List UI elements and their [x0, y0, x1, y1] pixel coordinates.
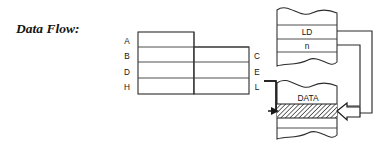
register-label-l: L [255, 83, 260, 92]
l-register-to-data-arrow [264, 81, 276, 111]
register-label-e: E [254, 68, 260, 77]
register-label-h: H [124, 83, 130, 92]
caption-data-flow: Data Flow: [15, 21, 79, 36]
ld-opcode-cell: LD [302, 27, 313, 37]
register-label-c: C [254, 52, 260, 61]
n-to-data-connector [337, 45, 360, 106]
ld-to-data-connector [337, 31, 372, 113]
register-table-left-block [138, 32, 194, 94]
diagram-canvas: Data Flow: A B D H C E L [0, 0, 390, 160]
register-label-a: A [124, 37, 130, 46]
register-label-b: B [124, 52, 130, 61]
data-cell: DATA [297, 93, 319, 103]
register-pair-table: A B D H C E L [124, 32, 260, 94]
data-flow-diagram: Data Flow: A B D H C E L [0, 0, 390, 160]
register-table-right-block [194, 47, 249, 94]
instruction-ribbon: LD n [277, 8, 337, 66]
n-operand-cell: n [305, 41, 310, 51]
register-label-d: D [124, 68, 130, 77]
data-hatched-cell [270, 104, 345, 118]
data-ribbon: DATA [270, 80, 345, 139]
l-register-to-data-arrow-path [264, 81, 276, 111]
